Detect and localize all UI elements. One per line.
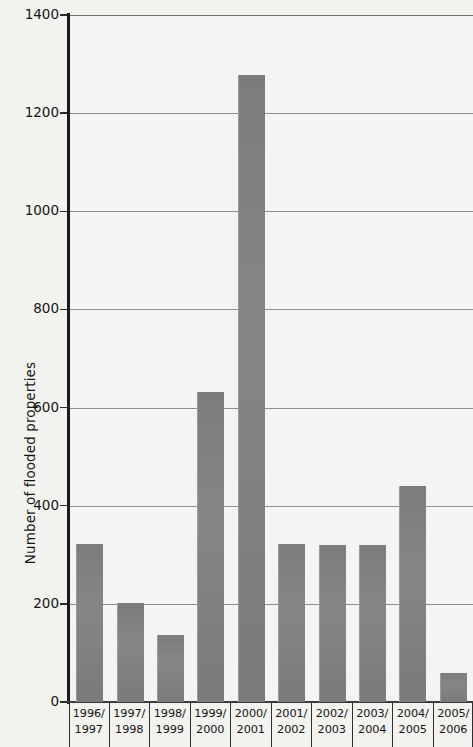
x-axis-category-label-line: 1998 <box>115 722 143 738</box>
gridline <box>69 211 473 212</box>
bar <box>278 544 305 702</box>
x-axis-category-label-line: 2000 <box>196 722 224 738</box>
x-axis-category-label-line: 2005 <box>399 722 427 738</box>
x-axis-category-label: 2004/2005 <box>393 703 434 747</box>
y-axis-tick-label: 400 <box>0 499 59 513</box>
x-axis-category-label-line: 1999 <box>156 722 184 738</box>
x-axis-category-label-line: 1997/ <box>113 706 145 722</box>
x-axis-category-label: 1997/1998 <box>110 703 151 747</box>
x-axis-category-label-line: 2000/ <box>235 706 267 722</box>
bar <box>197 392 224 702</box>
x-axis-category-label-line: 1998/ <box>154 706 186 722</box>
y-axis-tick-label: 800 <box>0 302 59 316</box>
y-axis-tick-label: 1000 <box>0 204 59 218</box>
x-axis-category-label: 2001/2002 <box>272 703 313 747</box>
x-axis-category-label-line: 2001/ <box>275 706 307 722</box>
x-axis-category-label-line: 2005/ <box>437 706 469 722</box>
bar <box>76 544 103 702</box>
x-axis-category-label: 1996/1997 <box>69 703 110 747</box>
y-axis-line <box>67 13 70 704</box>
x-axis-category-band: 1996/19971997/19981998/19991999/20002000… <box>69 703 473 747</box>
x-axis-category-label-line: 2006 <box>439 722 467 738</box>
x-axis-category-label: 1998/1999 <box>150 703 191 747</box>
x-axis-category-label-line: 1999/ <box>194 706 226 722</box>
x-axis-category-label: 2002/2003 <box>312 703 353 747</box>
x-axis-category-label-line: 2004 <box>358 722 386 738</box>
bar <box>399 486 426 702</box>
y-axis-tick-label: 200 <box>0 597 59 611</box>
x-axis-category-label: 2003/2004 <box>353 703 394 747</box>
bar <box>157 635 184 702</box>
x-axis-category-label-line: 2003/ <box>356 706 388 722</box>
bar <box>440 673 467 702</box>
gridline <box>69 309 473 310</box>
bar <box>359 545 386 702</box>
bar-chart: Number of flooded properties 02004006008… <box>0 0 473 747</box>
x-axis-category-label-line: 1997 <box>75 722 103 738</box>
gridline <box>69 15 473 16</box>
y-axis-tick-label: 600 <box>0 401 59 415</box>
y-axis-title: Number of flooded properties <box>22 333 38 593</box>
y-axis-tick-label: 0 <box>0 695 59 709</box>
x-axis-category-label: 1999/2000 <box>191 703 232 747</box>
y-axis-tick-label: 1200 <box>0 106 59 120</box>
bar <box>319 545 346 702</box>
x-axis-category-label-line: 2001 <box>237 722 265 738</box>
x-axis-category-label: 2000/2001 <box>231 703 272 747</box>
gridline <box>69 113 473 114</box>
y-axis-tick-label: 1400 <box>0 8 59 22</box>
x-axis-category-label: 2005/2006 <box>434 703 473 747</box>
x-axis-category-label-line: 2003 <box>318 722 346 738</box>
x-axis-category-label-line: 2002 <box>277 722 305 738</box>
x-axis-category-label-line: 2004/ <box>397 706 429 722</box>
x-axis-category-label-line: 2002/ <box>316 706 348 722</box>
gridline <box>69 408 473 409</box>
bar <box>117 603 144 702</box>
x-axis-category-label-line: 1996/ <box>73 706 105 722</box>
bar <box>238 75 265 702</box>
